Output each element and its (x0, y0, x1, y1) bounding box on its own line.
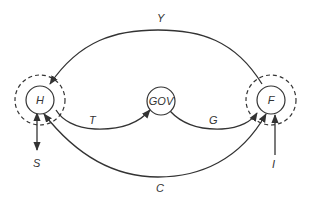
circular-flow-diagram: Y T G C S I H GOV F (0, 0, 315, 202)
taxes-flow-arrow (56, 110, 150, 129)
income-flow-arrow (50, 30, 262, 84)
government-node-label: GOV (149, 95, 175, 107)
household-node-label: H (36, 94, 44, 106)
gov-spending-flow-label: G (209, 114, 218, 126)
taxes-flow-label: T (89, 114, 97, 126)
consumption-flow-arrow (44, 114, 266, 177)
investment-flow-label: I (272, 158, 275, 170)
savings-flow-label: S (33, 157, 41, 169)
consumption-flow-label: C (156, 182, 164, 194)
income-flow-label: Y (157, 12, 165, 24)
